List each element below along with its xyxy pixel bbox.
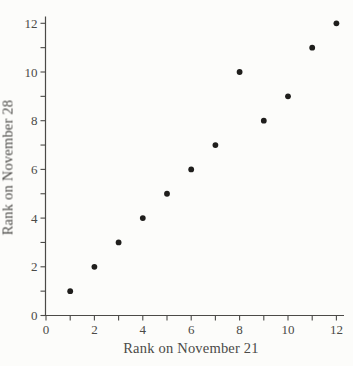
x-tick-label: 0 bbox=[43, 322, 50, 337]
x-tick-label: 8 bbox=[236, 322, 243, 337]
data-point bbox=[285, 93, 291, 99]
x-axis-title: Rank on November 21 bbox=[46, 340, 336, 357]
y-tick-label: 12 bbox=[25, 16, 38, 31]
data-point bbox=[116, 240, 122, 246]
x-tick-label: 4 bbox=[140, 322, 147, 337]
y-tick-label: 8 bbox=[31, 113, 38, 128]
data-point bbox=[140, 215, 146, 221]
data-point bbox=[334, 20, 340, 26]
y-tick-label: 0 bbox=[31, 308, 38, 323]
x-tick-label: 10 bbox=[282, 322, 295, 337]
data-point bbox=[188, 167, 194, 173]
x-tick-label: 2 bbox=[91, 322, 98, 337]
data-point bbox=[67, 288, 73, 294]
data-point bbox=[92, 264, 98, 270]
y-tick-label: 4 bbox=[31, 211, 38, 226]
x-tick-label: 12 bbox=[330, 322, 343, 337]
scatter-chart: 024681012024681012 bbox=[0, 0, 353, 366]
data-point bbox=[213, 142, 219, 148]
data-point bbox=[261, 118, 267, 124]
y-tick-label: 10 bbox=[25, 65, 38, 80]
y-tick-label: 6 bbox=[31, 162, 38, 177]
data-point bbox=[309, 45, 315, 51]
y-tick-label: 2 bbox=[31, 259, 38, 274]
y-axis-title: Rank on November 28 bbox=[0, 68, 17, 268]
scatter-plot-figure: 024681012024681012 Rank on November 28 R… bbox=[0, 0, 353, 366]
data-point bbox=[237, 69, 243, 75]
axis-spines bbox=[46, 17, 345, 316]
data-point bbox=[164, 191, 170, 197]
x-tick-label: 6 bbox=[188, 322, 195, 337]
